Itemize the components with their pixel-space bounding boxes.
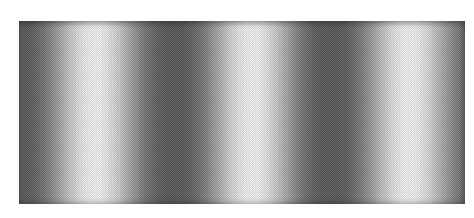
page-background [0, 0, 474, 218]
sine-grating-figure [19, 21, 465, 204]
grating-gradient [19, 21, 465, 204]
